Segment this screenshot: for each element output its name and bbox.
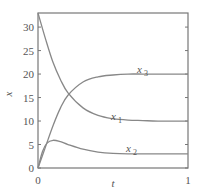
chart: 0 1 t x 051015202530 x 3 x 1 x 2 [0,0,199,194]
series-line-x2 [38,140,188,168]
series-label-sub: 2 [133,148,137,157]
series-label-main: x [136,63,142,75]
series-label-main: x [125,142,131,154]
series-label-x2: x 2 [125,142,137,157]
series-label-x3: x 3 [136,63,148,78]
x-tick-1: 1 [185,174,191,186]
series-label-sub: 3 [144,69,148,78]
series-label-sub: 1 [118,116,122,125]
series-label-x1: x 1 [110,110,122,125]
y-tick-label: 0 [29,162,35,174]
y-tick-label: 10 [23,115,35,127]
y-tick-label: 15 [23,92,35,104]
y-tick-label: 20 [23,68,35,80]
y-tick-label: 30 [23,21,35,33]
y-tick-label: 25 [23,45,35,57]
y-axis-label: x [2,91,14,97]
plot-frame [38,13,188,168]
x-axis-label: t [111,177,115,189]
series-line-x1 [38,13,188,121]
y-tick-label: 5 [29,139,35,151]
x-tick-0: 0 [35,174,41,186]
plot-area [38,13,188,168]
y-tick-labels: 051015202530 [23,21,35,174]
series-label-main: x [110,110,116,122]
